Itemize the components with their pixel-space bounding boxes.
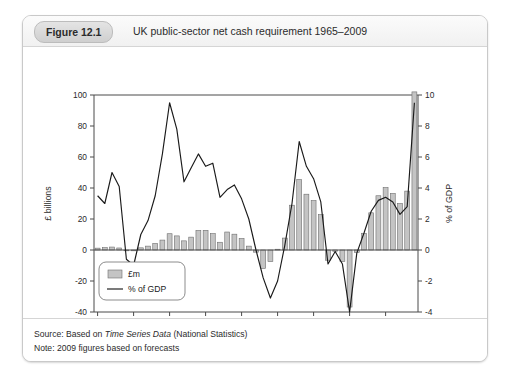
y2-axis-title: % of GDP bbox=[444, 184, 454, 223]
y2-tick-label: 8 bbox=[425, 121, 430, 131]
figure-footer: Source: Based on Time Series Data (Natio… bbox=[23, 318, 487, 361]
bar bbox=[412, 92, 417, 250]
y-tick-label: 100 bbox=[73, 90, 87, 100]
y2-tick-label: 0 bbox=[425, 245, 430, 255]
y-tick-label: 20 bbox=[78, 214, 88, 224]
bar bbox=[232, 234, 237, 250]
y2-tick-label: 6 bbox=[425, 152, 430, 162]
y2-tick-label: 4 bbox=[425, 183, 430, 193]
y-tick-label: 0 bbox=[82, 245, 87, 255]
bar bbox=[311, 201, 316, 250]
bar bbox=[218, 242, 223, 250]
bar bbox=[261, 250, 266, 268]
bar bbox=[369, 213, 374, 250]
bar bbox=[246, 246, 251, 250]
bar bbox=[167, 234, 172, 250]
y2-tick-label: -4 bbox=[425, 307, 433, 317]
figure-title: UK public-sector net cash requirement 19… bbox=[133, 21, 367, 41]
bar bbox=[203, 230, 208, 250]
source-line: Source: Based on Time Series Data (Natio… bbox=[34, 329, 247, 339]
figure-number-badge: Figure 12.1 bbox=[34, 21, 113, 43]
legend-label-gdp: % of GDP bbox=[128, 284, 166, 294]
legend-label-gbp: £m bbox=[128, 269, 140, 279]
bar bbox=[304, 194, 309, 250]
source-suffix: (National Statistics) bbox=[171, 329, 247, 339]
y-tick-label: -40 bbox=[75, 307, 87, 317]
legend-swatch-bar bbox=[108, 270, 122, 278]
bar bbox=[174, 236, 179, 250]
bar bbox=[160, 240, 165, 250]
bar bbox=[268, 250, 273, 262]
bar bbox=[340, 250, 345, 261]
bar bbox=[225, 232, 230, 250]
bar bbox=[297, 180, 302, 250]
source-italic: Time Series Data bbox=[105, 329, 171, 339]
y-tick-label: 60 bbox=[78, 152, 88, 162]
y2-tick-label: 2 bbox=[425, 214, 430, 224]
figure-container: Figure 12.1 UK public-sector net cash re… bbox=[22, 15, 488, 362]
figure-header: Figure 12.1 UK public-sector net cash re… bbox=[23, 16, 487, 47]
note-line: Note: 2009 figures based on forecasts bbox=[34, 343, 179, 353]
y2-tick-label: -2 bbox=[425, 276, 433, 286]
y-axis-title: £ billions bbox=[43, 186, 53, 221]
chart-area: -40-20020406080100-4-2024681019651970197… bbox=[23, 47, 487, 320]
legend-box bbox=[99, 262, 185, 300]
y-tick-label: -20 bbox=[75, 276, 87, 286]
bar bbox=[146, 246, 151, 250]
y-tick-label: 40 bbox=[78, 183, 88, 193]
source-prefix: Source: Based on bbox=[34, 329, 105, 339]
y2-tick-label: 10 bbox=[425, 90, 435, 100]
bar bbox=[153, 243, 158, 250]
bar bbox=[362, 233, 367, 250]
bar bbox=[196, 230, 201, 250]
chart-svg: -40-20020406080100-4-2024681019651970197… bbox=[23, 47, 487, 320]
y-tick-label: 80 bbox=[78, 121, 88, 131]
bar bbox=[189, 237, 194, 250]
bar bbox=[210, 234, 215, 250]
bar bbox=[182, 241, 187, 250]
bar bbox=[239, 239, 244, 250]
